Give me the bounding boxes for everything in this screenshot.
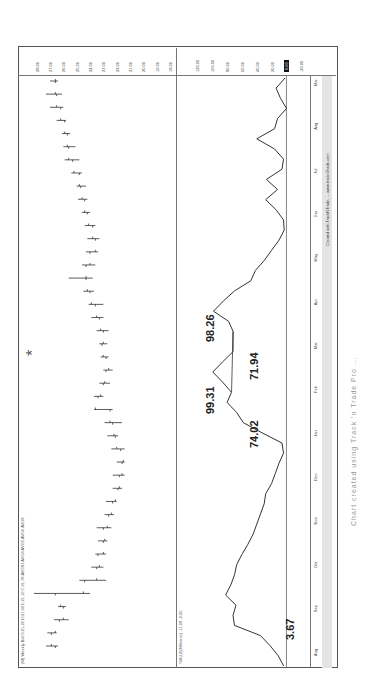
ohlc-bar <box>54 618 69 622</box>
chart-canvas <box>0 0 365 676</box>
ohlc-bar <box>57 118 66 122</box>
ohlc-bar <box>77 184 86 188</box>
ohlc-bar <box>82 210 90 214</box>
annotation-74-02: 74.02 <box>248 420 260 448</box>
ohlc-bar <box>107 434 118 438</box>
ohlc-bar <box>97 526 112 530</box>
ohlc-bar <box>71 171 82 175</box>
ohlc-bar <box>89 302 104 306</box>
ohlc-bar <box>98 539 107 543</box>
ohlc-bar <box>50 79 58 83</box>
ohlc-bar <box>46 92 62 96</box>
ohlc-bar <box>113 473 125 477</box>
ohlc-bar <box>65 158 80 162</box>
ohlc-bar <box>58 605 66 609</box>
ohlc-bar <box>97 329 109 333</box>
ohlc-bar <box>47 631 56 635</box>
ohlc-bar <box>78 197 87 201</box>
ohlc-bar <box>83 289 94 293</box>
ohlc-bar <box>101 355 109 359</box>
ohlc-bar <box>94 394 103 398</box>
ohlc-bar <box>62 132 70 136</box>
ohlc-bar <box>95 552 106 556</box>
ohlc-bar <box>50 105 63 109</box>
ohlc-bar <box>86 250 98 254</box>
chart-caption: Chart created using Track 'n Trade Pro .… <box>350 356 357 526</box>
ohlc-bar <box>34 591 90 595</box>
ohlc-bar <box>79 578 106 582</box>
annotation-71-94: 71.94 <box>248 352 260 380</box>
ohlc-bar <box>99 381 110 385</box>
annotation-99-31: 99.31 <box>204 386 216 414</box>
ohlc-bar <box>99 342 107 346</box>
ohlc-bar <box>85 224 96 228</box>
annotation-98-26: 98.26 <box>204 314 216 342</box>
ohlc-bar <box>105 513 114 517</box>
ohlc-bar <box>111 447 124 451</box>
annotation-3-67: 3.67 <box>284 619 296 640</box>
ohlc-bar <box>87 237 99 241</box>
ohlc-bar <box>91 565 103 569</box>
ohlc-bar <box>103 368 112 372</box>
chart-stage: (W) Weekly Bid O:21.22 H:21.94 L:21.10 C… <box>0 0 365 676</box>
ohlc-bar <box>106 499 117 503</box>
ohlc-bar <box>94 407 113 411</box>
ohlc-bar <box>46 644 58 648</box>
ohlc-bar <box>117 460 125 464</box>
ohlc-bar <box>69 276 93 280</box>
ohlc-bar <box>82 263 95 267</box>
ohlc-bar <box>91 316 103 320</box>
ohlc-bar <box>113 486 122 490</box>
trendline-lows <box>232 331 233 392</box>
asterisk-marker: * <box>24 350 42 356</box>
ohlc-bar <box>105 421 122 425</box>
ohlc-bar <box>63 145 75 149</box>
